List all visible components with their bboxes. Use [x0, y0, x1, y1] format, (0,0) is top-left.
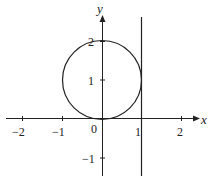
y-axis-label: y — [95, 1, 103, 16]
x-tick-label: −2 — [12, 125, 25, 139]
x-axis-label: x — [200, 112, 207, 127]
x-tick-label: 1 — [135, 125, 141, 139]
x-tick-label: 2 — [177, 125, 183, 139]
y-tick-label: 1 — [88, 74, 94, 88]
y-tick-label: −1 — [82, 152, 95, 166]
x-tick-label: −1 — [52, 125, 65, 139]
y-tick-label: 2 — [88, 35, 94, 49]
graph: y x −2 −1 0 1 2 2 1 −1 — [0, 0, 212, 176]
origin-label: 0 — [91, 122, 97, 136]
